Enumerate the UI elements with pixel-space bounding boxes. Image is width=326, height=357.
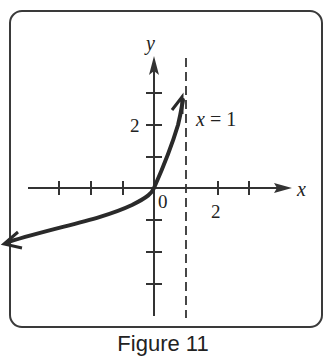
y-axis-label: y <box>144 32 155 55</box>
y-tick-label-2: 2 <box>130 115 140 136</box>
curve-right-arrow-icon <box>172 97 182 114</box>
asymptote-label: x = 1 <box>195 108 236 130</box>
x-tick-label-2: 2 <box>211 201 221 222</box>
origin-label: 0 <box>158 191 168 212</box>
x-axis-label: x <box>296 178 306 200</box>
figure-caption: Figure 11 <box>0 331 326 357</box>
